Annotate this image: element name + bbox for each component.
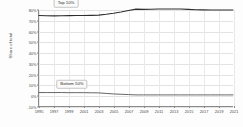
x-tick-mark (84, 106, 85, 108)
y-tick-label: 20% (29, 72, 37, 77)
y-tick-label: 30% (29, 61, 37, 66)
x-tick-label: 2009 (140, 109, 149, 114)
gridline-vertical (234, 10, 235, 106)
series-line-bottom-50 (39, 93, 233, 95)
x-tick-label: 1999 (65, 109, 74, 114)
y-tick-label: 40% (29, 51, 37, 56)
series-line-top-10 (39, 9, 233, 16)
x-tick-label: 2019 (215, 109, 224, 114)
x-tick-label: 1997 (50, 109, 59, 114)
series-lines (39, 10, 233, 106)
x-tick-label: 2011 (155, 109, 163, 114)
x-tick-label: 2021 (230, 109, 239, 114)
x-tick-label: 2003 (95, 109, 104, 114)
y-tick-label: 80% (29, 8, 37, 13)
x-tick-mark (99, 106, 100, 108)
top-10-label: Top 10% (54, 0, 79, 7)
y-tick-label: 70% (29, 18, 37, 23)
x-tick-mark (39, 106, 40, 108)
y-tick-label: 60% (29, 29, 37, 34)
x-tick-mark (204, 106, 205, 108)
line-chart: Share of total 80%70%60%50%40%30%20%10%0… (0, 0, 243, 127)
x-tick-label: 2015 (185, 109, 194, 114)
y-tick-label: 10% (29, 83, 37, 88)
x-tick-mark (189, 106, 190, 108)
x-tick-mark (219, 106, 220, 108)
y-axis-title: Share of total (8, 14, 13, 78)
x-tick-label: 2013 (170, 109, 179, 114)
x-tick-mark (129, 106, 130, 108)
x-tick-mark (69, 106, 70, 108)
x-tick-label: 2017 (200, 109, 209, 114)
x-tick-mark (159, 106, 160, 108)
x-tick-label: 2001 (80, 109, 89, 114)
x-tick-mark (54, 106, 55, 108)
x-tick-mark (144, 106, 145, 108)
x-tick-mark (174, 106, 175, 108)
y-tick-label: 0% (31, 94, 37, 99)
bottom-50-label: Bottom 50% (56, 80, 87, 89)
x-tick-label: 1995 (35, 109, 44, 114)
x-tick-label: 2007 (125, 109, 134, 114)
x-tick-mark (114, 106, 115, 108)
y-tick-label: 50% (29, 40, 37, 45)
x-tick-label: 2005 (110, 109, 119, 114)
plot-area: 80%70%60%50%40%30%20%10%0%-10% 199519971… (38, 10, 233, 107)
x-tick-mark (234, 106, 235, 108)
